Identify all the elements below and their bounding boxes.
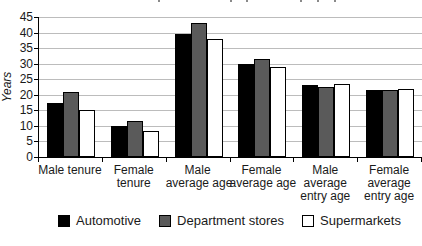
legend: AutomotiveDepartment storesSupermarkets <box>38 213 421 228</box>
category-label: Maleaverageentry age <box>293 164 357 203</box>
bar-department-stores <box>254 59 270 157</box>
x-tick-mark <box>166 158 167 162</box>
y-tick-label: 20 <box>0 88 33 102</box>
bar-department-stores <box>127 121 143 157</box>
y-tick-label: 0 <box>0 150 33 164</box>
bar-automotive <box>47 103 63 157</box>
bar-supermarkets <box>270 67 286 157</box>
gridline-10 <box>39 126 422 127</box>
x-tick-mark <box>38 158 39 162</box>
bar-automotive <box>366 90 382 157</box>
gridline-35 <box>39 48 422 49</box>
y-tick-label: 5 <box>0 134 33 148</box>
category-label: Femaleaverageentry age <box>357 164 421 203</box>
bar-department-stores <box>382 90 398 157</box>
y-tick-label: 10 <box>0 119 33 133</box>
legend-item-department-stores: Department stores <box>159 213 284 228</box>
x-tick-mark <box>102 158 103 162</box>
bar-supermarkets <box>334 84 350 157</box>
bar-automotive <box>175 34 191 157</box>
bar-supermarkets <box>79 110 95 157</box>
gridline-30 <box>39 64 422 65</box>
gridline-25 <box>39 79 422 80</box>
y-tick-label: 45 <box>0 10 33 24</box>
legend-swatch <box>159 215 171 227</box>
y-tick-label: 15 <box>0 103 33 117</box>
legend-item-supermarkets: Supermarkets <box>302 213 401 228</box>
bar-automotive <box>302 85 318 157</box>
bar-supermarkets <box>207 39 223 157</box>
legend-swatch <box>302 215 314 227</box>
x-tick-mark <box>357 158 358 162</box>
x-tick-mark <box>293 158 294 162</box>
legend-label: Department stores <box>177 213 284 228</box>
x-tick-mark <box>230 158 231 162</box>
legend-item-automotive: Automotive <box>58 213 141 228</box>
bar-supermarkets <box>398 89 414 157</box>
bar-automotive <box>238 64 254 157</box>
bar-department-stores <box>63 92 79 157</box>
legend-label: Automotive <box>76 213 141 228</box>
gridline-20 <box>39 95 422 96</box>
legend-swatch <box>58 215 70 227</box>
bar-department-stores <box>318 87 334 157</box>
y-tick-label: 25 <box>0 72 33 86</box>
category-label: Femaleaverage age <box>230 164 294 190</box>
gridline-45 <box>39 17 422 18</box>
legend-label: Supermarkets <box>320 213 401 228</box>
y-tick-label: 30 <box>0 57 33 71</box>
y-tick-label: 35 <box>0 41 33 55</box>
category-label: Male tenure <box>38 164 102 177</box>
bar-automotive <box>111 126 127 157</box>
plot-area <box>38 17 422 158</box>
category-label: Femaletenure <box>102 164 166 190</box>
gridline-15 <box>39 110 422 111</box>
gridline-5 <box>39 141 422 142</box>
gridline-40 <box>39 33 422 34</box>
y-tick-label: 40 <box>0 26 33 40</box>
bar-department-stores <box>191 23 207 157</box>
bar-chart-figure: Years 454035302520151050 Male tenureFema… <box>0 0 422 246</box>
bar-supermarkets <box>143 131 159 157</box>
category-label: Maleaverage age <box>166 164 230 190</box>
